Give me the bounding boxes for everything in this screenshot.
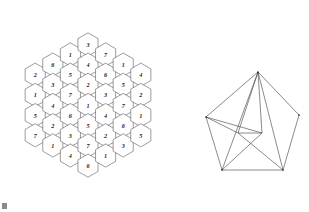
- hex-cell-digit: 4: [138, 71, 142, 78]
- hex-cell: 5: [131, 124, 151, 147]
- hex-cell-digit: 1: [122, 61, 125, 68]
- hex-cell: 7: [96, 43, 116, 66]
- hex-cell: 3: [43, 73, 63, 96]
- pentagon-vertex-dot: [282, 169, 284, 171]
- hex-cell: 6: [96, 63, 116, 86]
- figure-canvas: 2157634211576343421576763421157634215: [0, 0, 309, 212]
- hex-cell: 3: [96, 83, 116, 106]
- hex-cell: 4: [60, 144, 80, 167]
- pentagon-chord: [222, 72, 258, 170]
- hex-cell: 5: [78, 114, 98, 137]
- hex-cell: 2: [131, 83, 151, 106]
- hex-cell: 4: [96, 104, 116, 127]
- pentagon-vertex-dot: [221, 169, 223, 171]
- hex-cell-digit: 5: [69, 71, 72, 78]
- hex-cell: 1: [25, 83, 45, 106]
- hex-cell: 1: [96, 144, 116, 167]
- honeycomb-number-grid: 2157634211576343421576763421157634215: [25, 33, 151, 177]
- hex-cell-digit: 2: [50, 122, 54, 129]
- hex-cell: 7: [78, 134, 98, 157]
- pentagon-chord: [206, 117, 262, 133]
- hex-cell: 1: [60, 43, 80, 66]
- hex-cell: 1: [131, 104, 151, 127]
- hex-cell-digit: 3: [50, 81, 54, 88]
- hex-cell-digit: 1: [69, 51, 72, 58]
- pentagon-vertex-dot: [205, 116, 207, 118]
- hex-cell: 5: [113, 73, 133, 96]
- hex-cell-digit: 1: [104, 152, 107, 159]
- hex-cell-digit: 3: [68, 132, 72, 139]
- pentagon-vertex-dot: [298, 114, 300, 116]
- hex-cell: 6: [113, 114, 133, 137]
- hex-cell-digit: 2: [85, 81, 89, 88]
- hex-cell-digit: 2: [103, 132, 107, 139]
- hex-cell-digit: 4: [50, 102, 54, 109]
- hex-cell-digit: 5: [122, 81, 125, 88]
- hex-cell: 7: [25, 124, 45, 147]
- hex-cell: 2: [25, 63, 45, 86]
- hex-cell: 3: [78, 33, 98, 56]
- hex-cell: 4: [78, 53, 98, 76]
- pentagon-chord: [238, 72, 258, 133]
- hex-cell-digit: 1: [139, 112, 142, 119]
- hex-cell: 2: [43, 114, 63, 137]
- hex-cell: 4: [43, 93, 63, 116]
- hex-cell-digit: 2: [138, 91, 142, 98]
- hex-cell-digit: 5: [139, 132, 142, 139]
- pentagon-chord: [258, 72, 262, 133]
- hex-cell-digit: 4: [85, 61, 89, 68]
- page-corner-mark-shape: [2, 203, 7, 209]
- hex-cell: 2: [78, 73, 98, 96]
- hex-cell-digit: 3: [85, 41, 89, 48]
- hex-cell-digit: 1: [34, 91, 37, 98]
- pentagon-chord: [258, 72, 283, 170]
- hex-cell: 4: [131, 63, 151, 86]
- hex-cell-digit: 3: [121, 142, 125, 149]
- hex-cell: 1: [113, 53, 133, 76]
- pentagon-vertex-dot: [257, 71, 259, 73]
- hex-cell-digit: 5: [86, 122, 89, 129]
- hex-cell: 2: [96, 124, 116, 147]
- hex-cell-digit: 1: [51, 142, 54, 149]
- hex-cell: 3: [113, 134, 133, 157]
- hex-cell: 7: [113, 93, 133, 116]
- hex-cell: 6: [60, 104, 80, 127]
- hex-cell: 3: [60, 124, 80, 147]
- hex-cell: 5: [25, 104, 45, 127]
- pentagon-chord: [238, 133, 283, 170]
- hex-cell: 5: [60, 63, 80, 86]
- hex-cell-digit: 4: [103, 112, 107, 119]
- hex-cell: 1: [78, 93, 98, 116]
- hex-cell-digit: 1: [86, 102, 89, 109]
- pentagon-chord: [222, 133, 262, 170]
- hex-cell-digit: 4: [68, 152, 72, 159]
- hex-cell-digit: 5: [34, 112, 37, 119]
- pentagon-with-internal-diagonals: [205, 71, 300, 171]
- hex-cell: 6: [43, 53, 63, 76]
- hex-cell: 1: [43, 134, 63, 157]
- hex-cell-digit: 2: [33, 71, 37, 78]
- hex-cell: 6: [78, 154, 98, 177]
- hex-cell: 7: [60, 83, 80, 106]
- hex-cell-digit: 3: [103, 91, 107, 98]
- page-corner-mark: [2, 203, 7, 209]
